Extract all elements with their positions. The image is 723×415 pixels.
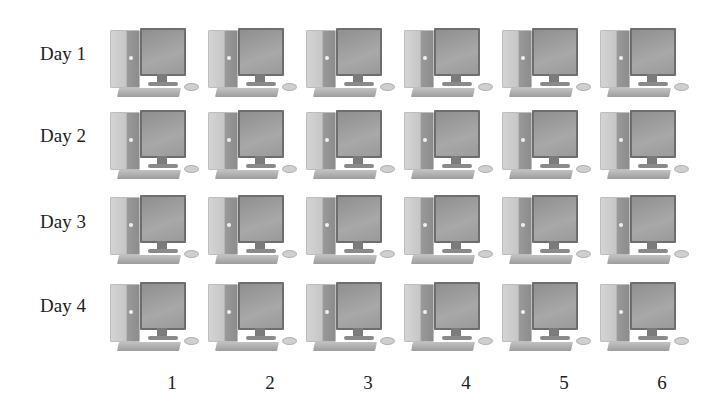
row-label: Day 3 bbox=[40, 212, 86, 232]
computer-tower bbox=[110, 197, 140, 255]
desktop-computer-icon bbox=[402, 282, 494, 354]
desktop-computer-icon bbox=[402, 28, 494, 100]
desktop-computer-icon bbox=[108, 282, 200, 354]
monitor bbox=[336, 28, 382, 76]
keyboard bbox=[117, 255, 181, 264]
mouse bbox=[380, 83, 395, 91]
mouse bbox=[184, 337, 199, 345]
monitor bbox=[336, 195, 382, 243]
monitor bbox=[630, 282, 676, 330]
power-button bbox=[325, 310, 329, 314]
computer-tower bbox=[502, 197, 532, 255]
desktop-computer-icon bbox=[304, 28, 396, 100]
monitor-base bbox=[148, 249, 178, 253]
power-button bbox=[423, 310, 427, 314]
keyboard bbox=[509, 342, 573, 351]
computer-tower bbox=[600, 284, 630, 342]
monitor-base bbox=[442, 336, 472, 340]
desktop-computer-icon bbox=[304, 195, 396, 267]
computer-tower bbox=[306, 284, 336, 342]
monitor-base bbox=[442, 164, 472, 168]
power-button bbox=[129, 223, 133, 227]
keyboard bbox=[607, 170, 671, 179]
computer-tower bbox=[110, 284, 140, 342]
keyboard bbox=[117, 342, 181, 351]
mouse bbox=[674, 250, 689, 258]
computer-tower bbox=[208, 112, 238, 170]
column-label: 3 bbox=[358, 372, 378, 394]
monitor-base bbox=[344, 336, 374, 340]
computer-tower bbox=[600, 30, 630, 88]
mouse bbox=[380, 337, 395, 345]
monitor bbox=[140, 28, 186, 76]
computer-tower bbox=[306, 112, 336, 170]
power-button bbox=[129, 138, 133, 142]
mouse bbox=[282, 165, 297, 173]
computer-tower bbox=[502, 30, 532, 88]
computer-tower bbox=[404, 284, 434, 342]
computer-tower bbox=[502, 112, 532, 170]
monitor-base bbox=[246, 164, 276, 168]
desktop-computer-icon bbox=[402, 110, 494, 182]
keyboard bbox=[313, 88, 377, 97]
power-button bbox=[325, 56, 329, 60]
column-label: 5 bbox=[554, 372, 574, 394]
mouse bbox=[380, 165, 395, 173]
mouse bbox=[674, 165, 689, 173]
row-label: Day 2 bbox=[40, 126, 86, 146]
monitor bbox=[434, 282, 480, 330]
desktop-computer-icon bbox=[108, 110, 200, 182]
desktop-computer-icon bbox=[500, 195, 592, 267]
mouse bbox=[184, 83, 199, 91]
monitor bbox=[630, 28, 676, 76]
mouse bbox=[478, 250, 493, 258]
computer-tower bbox=[404, 112, 434, 170]
desktop-computer-icon bbox=[598, 282, 690, 354]
monitor bbox=[238, 110, 284, 158]
monitor-base bbox=[540, 336, 570, 340]
monitor bbox=[630, 110, 676, 158]
power-button bbox=[619, 138, 623, 142]
mouse bbox=[282, 83, 297, 91]
computer-tower bbox=[306, 197, 336, 255]
monitor-base bbox=[638, 336, 668, 340]
monitor-base bbox=[638, 164, 668, 168]
column-label: 2 bbox=[260, 372, 280, 394]
monitor bbox=[532, 195, 578, 243]
mouse bbox=[380, 250, 395, 258]
power-button bbox=[423, 138, 427, 142]
power-button bbox=[521, 56, 525, 60]
keyboard bbox=[215, 170, 279, 179]
desktop-computer-icon bbox=[206, 110, 298, 182]
desktop-computer-icon bbox=[402, 195, 494, 267]
mouse bbox=[478, 165, 493, 173]
monitor-base bbox=[540, 164, 570, 168]
mouse bbox=[282, 250, 297, 258]
monitor-base bbox=[540, 249, 570, 253]
keyboard bbox=[607, 255, 671, 264]
keyboard bbox=[215, 342, 279, 351]
keyboard bbox=[509, 170, 573, 179]
keyboard bbox=[411, 88, 475, 97]
monitor-base bbox=[246, 336, 276, 340]
monitor-base bbox=[344, 82, 374, 86]
monitor bbox=[434, 110, 480, 158]
monitor bbox=[532, 110, 578, 158]
mouse bbox=[184, 250, 199, 258]
row-label: Day 1 bbox=[40, 44, 86, 64]
monitor-base bbox=[540, 82, 570, 86]
monitor bbox=[140, 110, 186, 158]
power-button bbox=[619, 223, 623, 227]
row-label: Day 4 bbox=[40, 296, 86, 316]
power-button bbox=[227, 223, 231, 227]
desktop-computer-icon bbox=[598, 195, 690, 267]
keyboard bbox=[411, 342, 475, 351]
monitor bbox=[532, 282, 578, 330]
mouse bbox=[184, 165, 199, 173]
monitor bbox=[336, 282, 382, 330]
desktop-computer-icon bbox=[206, 195, 298, 267]
monitor bbox=[532, 28, 578, 76]
desktop-computer-icon bbox=[206, 282, 298, 354]
monitor-base bbox=[148, 164, 178, 168]
power-button bbox=[521, 138, 525, 142]
